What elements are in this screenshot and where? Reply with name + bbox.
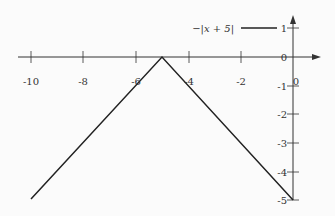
y-tick-label: -2 (277, 109, 287, 120)
y-tick-label: -5 (277, 195, 287, 206)
y-tick-label: -1 (277, 81, 287, 92)
x-tick-label: -4 (184, 76, 194, 87)
x-tick-label: -2 (236, 76, 246, 87)
y-tick-label: 0 (281, 52, 287, 63)
legend-label: −|x + 5| (192, 23, 234, 35)
y-tick-labels: 1 0 -1 -2 -3 -4 -5 (277, 23, 287, 206)
y-tick-label: 1 (281, 23, 287, 34)
y-tick-label: -4 (277, 167, 287, 178)
x-tick-label: -10 (23, 76, 39, 87)
y-axis-arrow-icon (290, 15, 296, 24)
x-axis-arrow-icon (312, 54, 321, 60)
series-line (31, 57, 293, 200)
chart-canvas: -10 -8 -6 -4 -2 0 1 0 -1 -2 -3 -4 -5 −|x… (0, 0, 335, 216)
y-tick-label: -3 (277, 138, 287, 149)
x-tick-label: 0 (293, 76, 299, 87)
x-tick-labels: -10 -8 -6 -4 -2 0 (23, 76, 299, 87)
x-tick-label: -8 (78, 76, 88, 87)
legend: −|x + 5| (192, 23, 277, 35)
